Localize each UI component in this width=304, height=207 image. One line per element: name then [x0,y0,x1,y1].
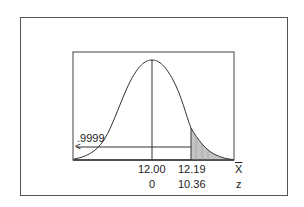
z-critical-tick: 10.36 [178,178,206,190]
bell-curve [74,60,233,160]
xbar-axis-label: X [235,163,242,175]
xbar-critical-tick: 12.19 [178,163,206,175]
z-mean-tick: 0 [149,178,155,190]
z-axis-label: z [236,178,242,190]
xbar-mean-tick: 12.00 [138,163,166,175]
shaded-tail-region [191,128,233,160]
cumulative-probability-label: .9999 [77,132,105,144]
left-arrow-icon: < [75,141,81,153]
normal-curve-plot [0,0,304,207]
